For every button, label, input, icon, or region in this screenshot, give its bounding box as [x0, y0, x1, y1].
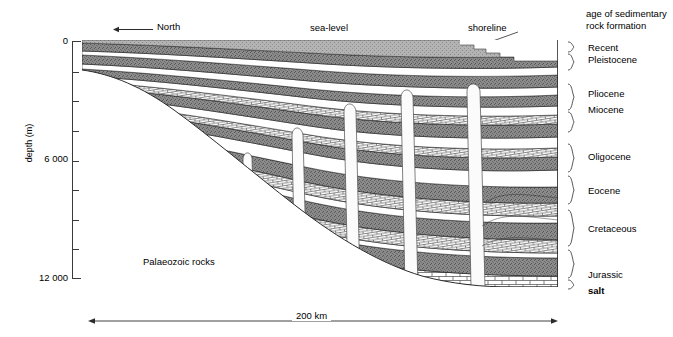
formation-label-pleistocene: Pleistocene — [588, 54, 637, 65]
scale-bar-label: 200 km — [292, 310, 331, 321]
depth-axis — [72, 41, 81, 279]
bracket-salt — [568, 280, 574, 289]
formation-label-miocene: Miocene — [588, 104, 624, 115]
bracket-jurassic — [568, 250, 574, 278]
axis-tick — [73, 190, 79, 191]
scale-arrow-right — [551, 318, 558, 324]
bracket-pleistocene — [568, 54, 574, 70]
bracket-pliocene — [568, 84, 574, 110]
axis-tick — [73, 161, 79, 162]
strata-stack — [82, 40, 558, 287]
bracket-miocene — [568, 112, 574, 132]
axis-tick — [73, 249, 79, 250]
axis-tick-label-6000: 6 000 — [8, 153, 68, 164]
legend-heading-line1: age of sedimentary — [586, 8, 667, 20]
axis-tick-label-0: 0 — [18, 35, 68, 46]
bracket-oligocene — [568, 144, 574, 172]
axis-tick — [73, 220, 79, 221]
depth-axis-title: depth (m) — [24, 108, 34, 178]
formation-brackets — [566, 40, 580, 290]
north-arrow-icon — [113, 25, 153, 34]
bracket-eocene — [568, 176, 574, 204]
sea-level-label: sea-level — [310, 22, 348, 33]
formation-label-oligocene: Oligocene — [588, 151, 631, 162]
axis-tick-label-12000: 12 000 — [4, 272, 68, 283]
bracket-recent — [568, 42, 574, 52]
axis-tick — [73, 101, 79, 102]
formation-label-pliocene: Pliocene — [588, 88, 624, 99]
legend-heading: age of sedimentary rock formation — [586, 8, 667, 31]
cross-section-diagram — [82, 40, 558, 287]
axis-tick — [73, 72, 79, 73]
salt-diapir-1 — [243, 153, 255, 287]
bracket-cretaceous — [568, 210, 574, 246]
formation-label-eocene: Eocene — [588, 185, 620, 196]
legend-heading-line2: rock formation — [586, 20, 667, 32]
formation-label-jurassic: Jurassic — [588, 269, 623, 280]
axis-tick — [73, 131, 79, 132]
formation-label-salt: salt — [588, 285, 604, 296]
formation-label-cretaceous: Cretaceous — [588, 223, 637, 234]
scale-arrow-left — [88, 318, 95, 324]
north-label: North — [157, 21, 180, 32]
formation-label-recent: Recent — [588, 42, 618, 53]
